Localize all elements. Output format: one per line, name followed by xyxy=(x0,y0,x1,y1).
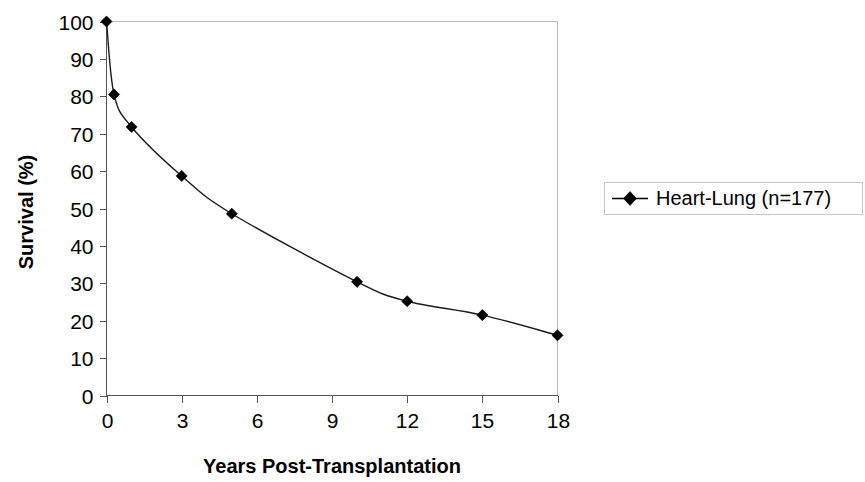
y-tick-label: 30 xyxy=(70,272,93,295)
y-axis-tick-labels: 0102030405060708090100 xyxy=(58,11,93,408)
y-tick-label: 50 xyxy=(70,198,93,221)
x-tick-label: 3 xyxy=(177,409,189,432)
y-axis: 0102030405060708090100 Survival (%) xyxy=(15,11,107,408)
x-tick-label: 6 xyxy=(252,409,264,432)
series-path xyxy=(107,22,558,336)
y-tick-label: 90 xyxy=(70,48,93,71)
y-axis-title: Survival (%) xyxy=(15,155,37,269)
legend-entry-label: Heart-Lung (n=177) xyxy=(656,187,831,209)
chart-canvas: 0102030405060708090100 Survival (%) 0369… xyxy=(0,0,865,482)
x-axis-tick-labels: 0369121518 xyxy=(102,409,571,432)
y-tick-label: 70 xyxy=(70,123,93,146)
y-tick-label: 80 xyxy=(70,85,93,108)
survival-chart-figure: 0102030405060708090100 Survival (%) 0369… xyxy=(0,0,865,482)
y-tick-label: 0 xyxy=(82,385,94,408)
y-tick-label: 20 xyxy=(70,310,93,333)
x-tick-label: 12 xyxy=(396,409,419,432)
data-point-marker xyxy=(552,330,563,341)
x-axis-ticks xyxy=(108,396,559,403)
y-axis-ticks xyxy=(100,23,107,397)
x-tick-label: 18 xyxy=(547,409,570,432)
x-tick-label: 15 xyxy=(471,409,494,432)
data-point-marker xyxy=(351,276,362,287)
chart-legend: Heart-Lung (n=177) xyxy=(605,183,863,215)
x-tick-label: 9 xyxy=(327,409,339,432)
data-point-marker xyxy=(402,296,413,307)
data-point-marker xyxy=(226,208,237,219)
data-point-marker xyxy=(101,16,112,27)
x-axis: 0369121518 Years Post-Transplantation xyxy=(102,396,571,478)
plot-frame xyxy=(107,22,558,396)
data-point-marker xyxy=(477,309,488,320)
y-tick-label: 40 xyxy=(70,235,93,258)
series-heart-lung xyxy=(101,16,563,341)
y-tick-label: 60 xyxy=(70,160,93,183)
y-tick-label: 10 xyxy=(70,347,93,370)
data-point-marker xyxy=(108,89,119,100)
y-tick-label: 100 xyxy=(58,11,93,34)
x-tick-label: 0 xyxy=(102,409,114,432)
x-axis-title: Years Post-Transplantation xyxy=(203,455,461,477)
